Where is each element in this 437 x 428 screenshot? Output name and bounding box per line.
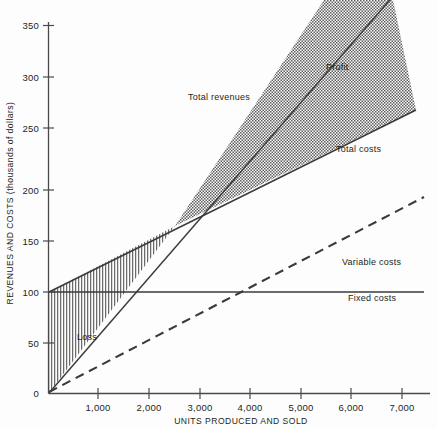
y-axis-title: REVENUES AND COSTS (thousands of dollars… (5, 102, 15, 305)
x-tick-1000: 1,000 (86, 402, 111, 413)
y-tick-200: 200 (23, 185, 39, 196)
y-tick-labels: 350 300 250 200 150 100 50 0 (23, 20, 39, 399)
profit-region (175, 0, 416, 226)
y-tick-250: 250 (23, 123, 39, 134)
x-axis-title: UNITS PRODUCED AND SOLD (174, 416, 308, 426)
x-tick-6000: 6,000 (339, 402, 364, 413)
y-tick-50: 50 (28, 338, 39, 349)
profit-label: Profit (326, 62, 349, 72)
x-tick-2000: 2,000 (137, 402, 162, 413)
y-tick-100: 100 (23, 287, 39, 298)
y-tick-300: 300 (23, 72, 39, 83)
total-revenues-label: Total revenues (188, 92, 250, 102)
loss-label: Loss (77, 332, 97, 342)
y-tick-0: 0 (34, 388, 39, 399)
break-even-chart: 350 300 250 200 150 100 50 0 1,000 2,000… (0, 0, 437, 428)
x-tick-7000: 7,000 (390, 402, 415, 413)
x-tick-4000: 4,000 (238, 402, 263, 413)
variable-costs-label: Variable costs (342, 257, 402, 267)
x-tick-5000: 5,000 (289, 402, 314, 413)
total-costs-label: Total costs (336, 144, 382, 154)
chart-canvas: 350 300 250 200 150 100 50 0 1,000 2,000… (0, 0, 437, 428)
x-tick-labels: 1,000 2,000 3,000 4,000 5,000 6,000 7,00… (86, 402, 415, 413)
fixed-costs-label: Fixed costs (348, 293, 397, 303)
x-tick-3000: 3,000 (188, 402, 213, 413)
loss-region (49, 226, 175, 393)
y-tick-350: 350 (23, 20, 39, 31)
y-tick-150: 150 (23, 236, 39, 247)
